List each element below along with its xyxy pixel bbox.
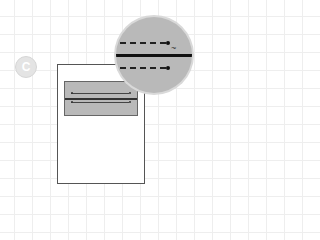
dashed-line-bottom [120,67,166,69]
line-endpoint-icon [129,92,131,94]
field-region [64,81,138,116]
line-endpoint-icon [71,92,73,94]
magnifier-circle: ~ [116,17,192,93]
solid-line [116,54,192,57]
dashed-line-top [120,42,166,44]
line-endpoint-icon [166,66,170,70]
field-line-bottom [71,102,129,103]
line-endpoint-icon [129,101,131,103]
step-badge: C [15,56,37,78]
step-badge-label: C [22,60,31,74]
field-separator [65,98,137,100]
line-endpoint-icon [71,101,73,103]
line-endpoint-icon [166,41,170,45]
field-line-top [71,93,129,94]
cursor-icon: ~ [171,44,176,53]
